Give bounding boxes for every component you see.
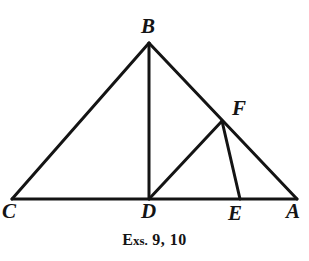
caption-lead: E: [122, 231, 133, 248]
geometry-figure: B F C D E A Exs. 9, 10: [0, 0, 309, 261]
vertex-label-E: E: [228, 203, 242, 224]
vertex-label-F: F: [232, 98, 246, 119]
segment-CB: [12, 43, 149, 199]
vertex-label-A: A: [286, 201, 300, 222]
segment-DF: [149, 121, 222, 199]
vertex-label-B: B: [141, 16, 155, 37]
vertex-label-D: D: [141, 201, 156, 222]
vertex-label-C: C: [2, 201, 16, 222]
figure-caption: Exs. 9, 10: [0, 231, 309, 249]
segment-FE: [222, 121, 240, 199]
segment-group: [12, 43, 297, 199]
caption-numbers: 9, 10: [148, 231, 187, 248]
caption-small: xs.: [133, 233, 148, 248]
